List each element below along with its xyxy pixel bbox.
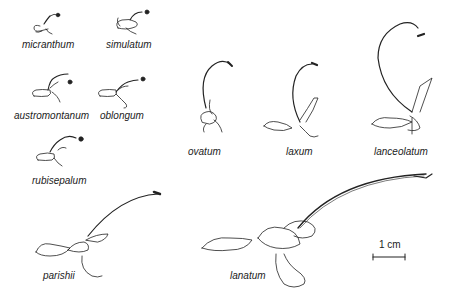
label-lanceolatum: lanceolatum <box>374 147 428 157</box>
flower-laxum-illustration <box>264 63 318 137</box>
label-parishii: parishii <box>43 271 75 281</box>
flower-ovatum-illustration <box>201 61 232 132</box>
flower-oblongum-illustration <box>98 77 145 108</box>
label-simulatum: simulatum <box>106 40 152 50</box>
label-ovatum: ovatum <box>188 147 221 157</box>
flower-lanceolatum-illustration <box>372 23 432 134</box>
botanical-figure: micranthum simulatum austromontanum oblo… <box>0 0 454 308</box>
label-lanatum: lanatum <box>230 271 266 281</box>
flower-parishii-illustration <box>36 192 160 277</box>
label-oblongum: oblongum <box>100 111 144 121</box>
flower-simulatum-illustration <box>117 10 149 34</box>
label-laxum: laxum <box>286 147 313 157</box>
scale-bar <box>373 254 405 260</box>
flower-rubisepalum-illustration <box>36 136 83 166</box>
label-austromontanum: austromontanum <box>14 111 89 121</box>
flower-micranthum-illustration <box>34 13 60 34</box>
flower-austromontanum-illustration <box>32 74 72 102</box>
label-micranthum: micranthum <box>22 40 74 50</box>
label-rubisepalum: rubisepalum <box>32 176 86 186</box>
scale-bar-label: 1 cm <box>379 240 401 250</box>
